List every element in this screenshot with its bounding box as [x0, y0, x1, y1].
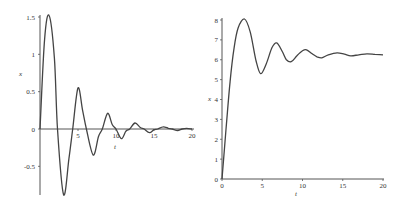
right-y-tick-label: 4 [215, 96, 219, 104]
right-y-tick-label: 0 [215, 176, 219, 184]
right-x-tick-label: 10 [299, 182, 307, 190]
right-x-tick-label: 5 [261, 182, 265, 190]
right-x-tick-label: 20 [380, 182, 388, 190]
right-y-tick-label: 3 [215, 116, 219, 124]
left-y-tick-label: 0 [32, 126, 36, 134]
right-y-tick-labels: 012345678 [215, 17, 223, 184]
right-y-tick-label: 6 [215, 56, 219, 64]
right-y-tick-label: 1 [215, 156, 219, 164]
left-x-axis-label: t [114, 143, 117, 151]
right-data-line [222, 19, 383, 179]
left-y-tick-label: -0.5 [24, 163, 36, 171]
right-y-tick-label: 2 [215, 136, 219, 144]
right-y-axis-label: x [207, 95, 212, 103]
left-y-tick-label: 0.5 [26, 88, 35, 96]
left-x-tick-label: 5 [76, 132, 80, 140]
left-x-tick-label: 20 [189, 132, 197, 140]
right-x-tick-labels: 05101520 [220, 179, 387, 190]
right-y-tick-label: 8 [215, 17, 219, 25]
left-x-tick-label: 15 [151, 132, 159, 140]
left-y-axis-label: x [18, 70, 23, 78]
left-y-tick-label: 1.5 [26, 14, 35, 22]
right-x-axis-label: t [295, 190, 298, 198]
right-y-tick-label: 5 [215, 76, 219, 84]
left-y-tick-labels: 1.510.50-0.5 [24, 14, 40, 171]
figure: 1.510.50-0.5 5101520 x t 012345678 05101… [0, 0, 405, 207]
left-y-tick-label: 1 [32, 51, 36, 59]
right-x-tick-label: 0 [220, 182, 224, 190]
left-chart: 1.510.50-0.5 5101520 x t [18, 14, 196, 196]
right-y-tick-label: 7 [215, 36, 219, 44]
left-data-line [40, 15, 192, 195]
right-chart: 012345678 05101520 x t [207, 17, 387, 199]
right-x-tick-label: 15 [339, 182, 347, 190]
